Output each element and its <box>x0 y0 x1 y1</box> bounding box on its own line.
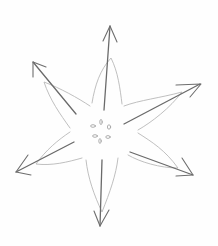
arrow-lower-right <box>130 152 193 175</box>
arrow-down <box>100 160 102 226</box>
seed-mark <box>100 119 102 124</box>
sketch-canvas: Pencil sketch of a six-petaled flower wi… <box>0 0 218 246</box>
seed-mark <box>106 136 110 139</box>
arrow-upper-left <box>33 62 76 114</box>
flower-arrows-sketch <box>0 0 218 246</box>
seed-mark <box>91 125 96 128</box>
arrow-upper-right <box>124 84 200 124</box>
seed-mark <box>99 139 101 144</box>
arrowhead-lower-right-icon <box>176 158 193 176</box>
flower-center <box>91 119 111 143</box>
arrow-up <box>104 26 110 110</box>
arrow-lower-left <box>16 142 74 172</box>
arrowhead-down-icon <box>94 210 109 226</box>
petal-outlines <box>36 58 182 212</box>
seed-mark <box>93 135 98 138</box>
seed-mark <box>107 125 110 129</box>
